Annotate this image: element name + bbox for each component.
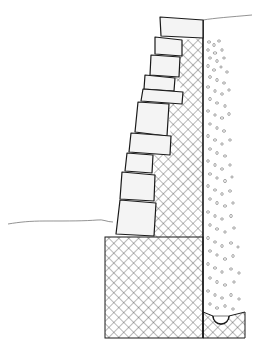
block (160, 17, 203, 38)
block (141, 89, 183, 104)
block (135, 102, 169, 136)
block (125, 153, 153, 173)
block (144, 75, 175, 91)
upper-ground-line (203, 15, 252, 20)
retaining-wall-diagram (0, 0, 267, 357)
block (129, 133, 171, 155)
block (120, 172, 155, 201)
gravel-drainage (206, 40, 240, 310)
block (155, 37, 182, 56)
lower-ground-line (8, 220, 113, 224)
block (150, 55, 180, 77)
block (116, 200, 156, 236)
footing (105, 237, 203, 338)
